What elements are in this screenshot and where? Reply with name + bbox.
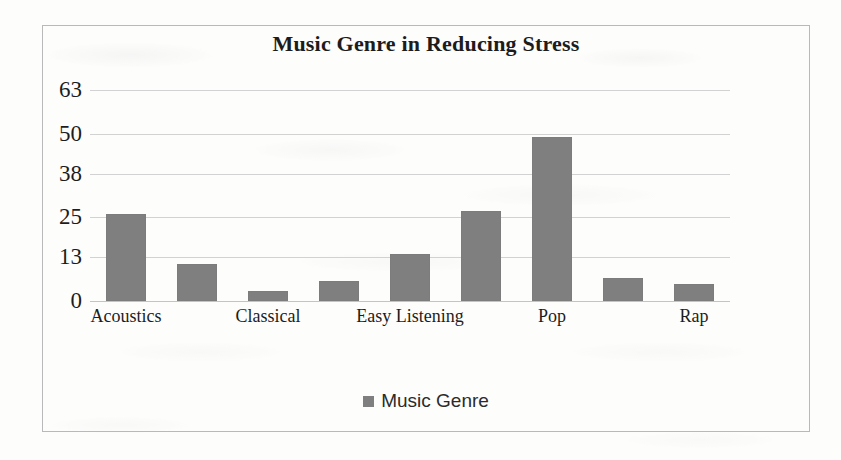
x-tick-label-classical: Classical <box>236 306 301 327</box>
x-axis-tick-labels: AcousticsClassicalEasy ListeningPopRap <box>90 306 730 334</box>
y-tick-label-63: 63 <box>36 78 82 101</box>
y-tick-label-50: 50 <box>36 122 82 145</box>
bar-5 <box>461 211 501 301</box>
legend-swatch-icon <box>363 396 374 407</box>
bar-series-music-genre <box>90 90 730 301</box>
x-tick-label-easy-listening: Easy Listening <box>356 306 463 327</box>
legend-label-music-genre: Music Genre <box>381 390 489 412</box>
y-tick-label-25: 25 <box>36 205 82 228</box>
y-axis-tick-labels: 63503825130 <box>36 90 82 301</box>
gridline-0 <box>90 301 730 302</box>
bar-7 <box>603 278 643 301</box>
y-tick-label-0: 0 <box>36 289 82 312</box>
bar-2 <box>248 291 288 301</box>
y-tick-label-38: 38 <box>36 162 82 185</box>
bar-8 <box>674 284 714 301</box>
bar-0 <box>106 214 146 301</box>
bar-4 <box>390 254 430 301</box>
bar-3 <box>319 281 359 301</box>
chart-title: Music Genre in Reducing Stress <box>42 31 810 57</box>
x-tick-label-acoustics: Acoustics <box>91 306 162 327</box>
bar-1 <box>177 264 217 301</box>
x-tick-label-rap: Rap <box>680 306 709 327</box>
y-tick-label-13: 13 <box>36 245 82 268</box>
chart-legend: Music Genre <box>42 390 810 412</box>
x-tick-label-pop: Pop <box>538 306 566 327</box>
chart-page: Music Genre in Reducing Stress 635038251… <box>0 0 841 460</box>
bar-6 <box>532 137 572 301</box>
